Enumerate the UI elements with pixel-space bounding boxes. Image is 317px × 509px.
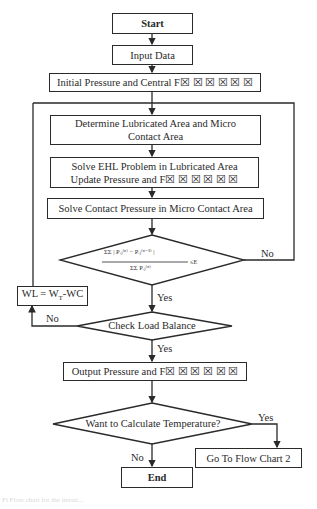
start-node: Start	[112, 13, 193, 34]
input-data-label: Input Data	[130, 49, 175, 62]
solve-ehl-line2: Update Pressure and F☒ ☒ ☒ ☒ ☒ ☒	[71, 173, 239, 186]
convergence-condition: ≤E	[190, 258, 198, 265]
load-yes-label: Yes	[157, 343, 172, 354]
determine-area-line2: Contact Area	[128, 130, 183, 143]
start-label: Start	[141, 17, 164, 30]
solve-contact-label: Solve Contact Pressure in Micro Contact …	[58, 202, 252, 215]
output-node: Output Pressure and F☒ ☒ ☒ ☒ ☒ ☒	[63, 362, 247, 381]
temp-yes-label: Yes	[258, 412, 273, 423]
output-label: Output Pressure and F☒ ☒ ☒ ☒ ☒ ☒	[72, 365, 239, 378]
wl-node: WL = WT-WC	[17, 286, 88, 306]
calculate-temperature-label: Want to Calculate Temperature?	[78, 418, 228, 429]
solve-ehl-node: Solve EHL Problem in Lubricated Area Upd…	[50, 157, 259, 188]
check-load-balance-label: Check Load Balance	[102, 320, 202, 331]
go-to-flow-chart-2-node: Go To Flow Chart 2	[195, 448, 302, 468]
determine-area-node: Determine Lubricated Area and Micro Cont…	[50, 115, 261, 145]
temp-no-label: No	[131, 452, 144, 463]
load-no-label: No	[46, 313, 59, 324]
go-to-flow-chart-2-label: Go To Flow Chart 2	[206, 452, 290, 465]
determine-area-line1: Determine Lubricated Area and Micro	[75, 117, 236, 130]
figure-caption: Fi Flow chart for the iterati...	[2, 496, 83, 504]
initial-pressure-node: Initial Pressure and Central F☒ ☒ ☒ ☒ ☒ …	[49, 73, 261, 92]
end-label: End	[148, 471, 167, 484]
convergence-no-label: No	[261, 248, 274, 259]
initial-pressure-label: Initial Pressure and Central F☒ ☒ ☒ ☒ ☒ …	[57, 76, 253, 89]
convergence-numerator: ΣΣ | Pᵢⱼ⁽ⁿ⁾ − Pᵢⱼ⁽ⁿ⁻¹⁾ |	[104, 248, 155, 256]
wl-label: WL = WT-WC	[22, 287, 84, 305]
solve-contact-node: Solve Contact Pressure in Micro Contact …	[47, 198, 264, 219]
input-data-node: Input Data	[112, 45, 193, 65]
convergence-denominator: ΣΣ Pᵢⱼ⁽ⁿ⁾	[130, 264, 151, 272]
solve-ehl-line1: Solve EHL Problem in Lubricated Area	[71, 160, 237, 173]
convergence-yes-label: Yes	[157, 292, 172, 303]
end-node: End	[121, 467, 193, 488]
